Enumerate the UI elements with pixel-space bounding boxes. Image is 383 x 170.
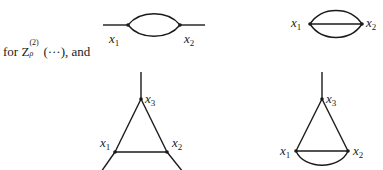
diagram-sunset <box>310 11 362 38</box>
vertex-dot <box>346 149 350 153</box>
label-x2: x2 <box>365 15 376 32</box>
caption-superscript: (2) <box>29 38 38 47</box>
caption-prefix: for <box>3 44 21 59</box>
caption-suffix: , and <box>65 44 90 59</box>
caption-text: for Z(2)ρ(···), and <box>3 44 90 60</box>
label-x3: x3 <box>325 91 337 108</box>
vertex-dot <box>320 97 324 101</box>
label-x3: x3 <box>144 91 156 108</box>
caption-subscript: ρ <box>29 49 33 58</box>
label-x1: x1 <box>290 15 301 32</box>
vertex-dot <box>165 150 169 154</box>
caption-indices: (2)ρ <box>29 46 43 56</box>
feynman-diagrams: x1 x2 x1 x2 x3 x1 x2 x3 x1 x2 <box>0 0 383 170</box>
label-x2: x2 <box>171 135 182 152</box>
diagram-triangle-bubble <box>296 72 348 165</box>
vertex-dot <box>113 150 117 154</box>
vertex-dot <box>294 149 298 153</box>
diagram-triangle <box>101 72 183 170</box>
caption-args: (···) <box>43 44 65 59</box>
vertex-dot <box>139 97 143 101</box>
label-x1: x1 <box>279 143 290 160</box>
vertex-dot <box>126 23 130 27</box>
label-x1: x1 <box>99 135 110 152</box>
label-x1: x1 <box>108 31 119 48</box>
vertex-dot <box>360 22 364 26</box>
vertex-dot <box>308 22 312 26</box>
vertex-dot <box>178 23 182 27</box>
label-x2: x2 <box>352 143 363 160</box>
label-x2: x2 <box>183 31 194 48</box>
